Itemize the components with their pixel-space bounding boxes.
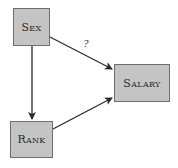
node-salary: Salary xyxy=(114,64,170,102)
node-salary-label: Salary xyxy=(123,77,160,90)
edge-label-question: ? xyxy=(83,37,89,49)
edge-rank-to-salary xyxy=(53,98,112,129)
edge-sex-to-salary xyxy=(50,37,112,69)
node-rank: Rank xyxy=(10,121,53,158)
node-rank-label: Rank xyxy=(17,133,45,146)
node-sex-label: Sex xyxy=(22,21,42,34)
node-sex: Sex xyxy=(13,8,50,46)
